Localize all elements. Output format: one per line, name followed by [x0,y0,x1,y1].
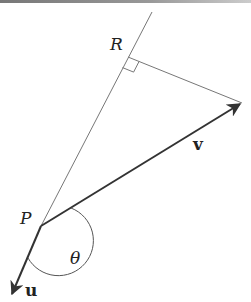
label-v: v [193,136,203,153]
vector-v [41,104,240,226]
angle-arc [28,208,93,276]
label-u: u [25,282,37,299]
projection-diagram: R P v u θ [0,0,251,302]
label-p: P [20,210,31,227]
diagram-canvas [0,0,251,302]
label-theta: θ [70,250,80,267]
line-through-p [41,12,152,226]
perpendicular-line [128,57,242,103]
label-r: R [110,36,123,53]
